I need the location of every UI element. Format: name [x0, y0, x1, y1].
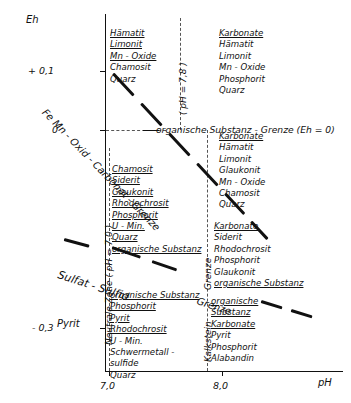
mineral-entry: Rhodochrosit [112, 198, 201, 209]
sulfat-boundary-seg-0 [64, 238, 90, 248]
mineral-entry: Hämatit [219, 39, 265, 50]
mineral-entry: Rhodochrosit [110, 324, 199, 335]
mineral-entry: Mn - Oxide [110, 51, 156, 62]
mineral-entry: Phosphorit [112, 210, 201, 221]
mineral-entry: Chamosit [110, 62, 156, 73]
mineral-entry: Phosphorit [219, 74, 265, 85]
mineral-entry: Limonit [110, 39, 156, 50]
mineral-entry: Hämatit [110, 28, 156, 39]
mineral-entry: sulfide [110, 358, 199, 369]
field-bottom-right: organischeSubstanzKarbonatePyritPhosphor… [211, 296, 258, 364]
mineral-entry: Siderit [214, 232, 303, 243]
mineral-entry: organische Substanz [214, 278, 303, 289]
org-boundary-seg-1 [261, 300, 283, 310]
mineral-entry: Pyrit [211, 330, 258, 341]
x-axis-title: pH [318, 377, 332, 388]
mineral-entry: Schwermetall - [110, 347, 199, 358]
x-tick-label-80: 8,0 [213, 380, 228, 391]
mineral-entry: Hämatit [219, 142, 265, 153]
mineral-entry: Phosphorit [211, 342, 258, 353]
mineral-entry: Quarz [110, 370, 199, 381]
mineral-entry: Karbonate [219, 131, 265, 142]
grenze-right-label: Grenze [203, 258, 213, 290]
eh-ph-diagram: Eh pH + 0,1 0 - 0,3 7,0 8,0 Fe Mn - Oxid… [0, 0, 351, 403]
org-boundary-seg-2 [291, 309, 313, 319]
y-tick-mark-plus01 [100, 71, 106, 72]
mineral-entry: Glaukonit [219, 165, 265, 176]
mineral-entry: Glaukonit [112, 187, 201, 198]
pyrit-field-label: Pyrit [57, 318, 80, 329]
mineral-entry: Mn - Oxide [219, 62, 265, 73]
x-tick-label-70: 7,0 [100, 380, 115, 391]
mineral-entry: Karbonate [219, 28, 265, 39]
sulfat-boundary-seg-2 [151, 260, 177, 272]
ph-78-label: ( pH = 7,8 ) [178, 62, 188, 115]
mineral-entry: organische Substanz [112, 244, 201, 255]
field-top-left: HämatitLimonitMn - OxideChamositQuarz [110, 28, 156, 85]
field-upper-mid-right: KarbonateHämatitLimonitGlaukonitMn - Oxi… [219, 131, 265, 211]
field-bottom-left: organische SubstanzPhosphoritPyritRhodoc… [110, 290, 199, 381]
mineral-entry: organische Substanz [110, 290, 199, 301]
mineral-entry: Karbonate [214, 221, 303, 232]
mineral-entry: Quarz [110, 74, 156, 85]
mineral-entry: U - Min. [112, 221, 201, 232]
mineral-entry: Siderit [112, 175, 201, 186]
mineral-entry: Quarz [112, 232, 201, 243]
mineral-entry: Rhodochrosit [214, 244, 303, 255]
field-top-right: KarbonateHämatitLimonitMn - OxidePhospho… [219, 28, 265, 96]
field-mid-right: KarbonateSideritRhodochrositPhosphoritGl… [214, 221, 303, 289]
y-tick-label-minus03: - 0,3 [32, 322, 54, 333]
field-mid-left: ChamositSideritGlaukonitRhodochrositPhos… [112, 164, 201, 255]
mineral-entry: Pyrit [110, 313, 199, 324]
femn-boundary-seg-3 [168, 133, 191, 157]
y-tick-label-plus01: + 0,1 [28, 65, 54, 76]
mineral-entry: Limonit [219, 154, 265, 165]
org-eh0-leader [143, 130, 159, 131]
mineral-entry: Chamosit [112, 164, 201, 175]
mineral-entry: Substanz [211, 307, 258, 318]
mineral-entry: Limonit [219, 51, 265, 62]
mineral-entry: Alabandin [211, 353, 258, 364]
mineral-entry: Glaukonit [214, 267, 303, 278]
mineral-entry: Mn - Oxide [219, 177, 265, 188]
mineral-entry: Karbonate [211, 319, 258, 330]
mineral-entry: Chamosit [219, 188, 265, 199]
mineral-entry: Phosphorit [110, 301, 199, 312]
x-tick-mark-80 [222, 371, 223, 376]
y-axis-title: Eh [26, 14, 39, 25]
mineral-entry: Quarz [219, 199, 265, 210]
mineral-entry: organische [211, 296, 258, 307]
mineral-entry: U - Min. [110, 336, 199, 347]
mineral-entry: Quarz [219, 85, 265, 96]
mineral-entry: Phosphorit [214, 255, 303, 266]
